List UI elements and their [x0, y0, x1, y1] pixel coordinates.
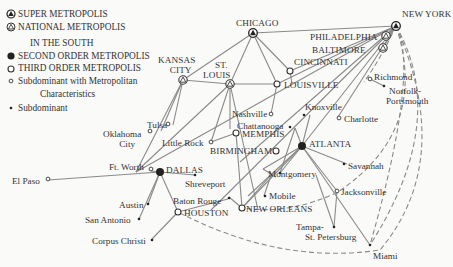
- label-houston: HOUSTON: [184, 208, 228, 218]
- node-austin[interactable]: [147, 203, 150, 206]
- legend-subdom-metro-1: Subdominant with Metropolitan: [18, 75, 137, 88]
- legend-heading: IN THE SOUTH: [4, 37, 150, 50]
- label-nashville: Nashville: [232, 109, 267, 119]
- node-corpus-christi[interactable]: [151, 239, 154, 242]
- label-savannah: Savannah: [348, 161, 384, 171]
- node-baton-rouge[interactable]: [228, 197, 231, 200]
- node-new-orleans[interactable]: [239, 205, 245, 211]
- label-little-rock: Little Rock: [162, 138, 204, 148]
- node-dallas[interactable]: [156, 168, 164, 176]
- legend-third: THIRD ORDER METROPOLIS: [18, 62, 141, 75]
- label-philadelphia: PHILADELPHIA: [310, 32, 378, 42]
- label-baton-rouge: Baton Rouge: [173, 196, 221, 206]
- label-jacksonville: Jacksonville: [341, 187, 386, 197]
- node-ft-worth[interactable]: [149, 167, 153, 171]
- legend-subdom-metro-2: Characteristics: [4, 88, 150, 101]
- node-new-york[interactable]: [392, 22, 401, 31]
- label-corpus-christi: Corpus Christi: [92, 236, 146, 246]
- legend-national: NATIONAL METROPOLIS: [18, 21, 125, 34]
- node-savannah[interactable]: [343, 163, 346, 166]
- node-cincinnati[interactable]: [287, 68, 293, 74]
- label-chicago: CHICAGO: [236, 18, 279, 28]
- node-richmond[interactable]: [368, 77, 372, 81]
- node-houston[interactable]: [175, 209, 181, 215]
- node-louisville[interactable]: [274, 81, 280, 87]
- label-birmingham: BIRMINGHAM: [210, 146, 272, 156]
- node-birmingham[interactable]: [273, 148, 279, 154]
- label-shreveport: Shreveport: [185, 179, 225, 189]
- node-knoxville[interactable]: [303, 114, 306, 117]
- label-ft-worth: Ft. Worth: [109, 162, 144, 172]
- label-norfolk: Norfolk-Portsmouth: [389, 86, 428, 106]
- third-order-icon: [4, 64, 18, 74]
- node-el-paso[interactable]: [46, 177, 50, 181]
- label-montgomery: Montgomery: [268, 169, 316, 179]
- node-baltimore[interactable]: [379, 44, 387, 52]
- second-order-icon: [4, 51, 18, 61]
- node-chattanooga[interactable]: [289, 126, 292, 129]
- legend-second: SECOND ORDER METROPOLIS: [18, 50, 150, 63]
- node-kansas-city[interactable]: [179, 76, 187, 84]
- subdominant-metro-icon: [4, 76, 18, 86]
- label-richmond: Richmond: [374, 72, 412, 82]
- label-atlanta: ATLANTA: [309, 139, 351, 149]
- label-el-paso: El Paso: [12, 176, 40, 186]
- node-norfolk[interactable]: [383, 85, 386, 88]
- node-atlanta[interactable]: [298, 142, 306, 150]
- label-austin: Austin: [119, 200, 144, 210]
- legend-super: SUPER METROPOLIS: [18, 8, 108, 21]
- node-little-rock[interactable]: [209, 140, 213, 144]
- legend-subdom: Subdominant: [18, 102, 68, 115]
- node-chicago[interactable]: [249, 29, 258, 38]
- node-miami[interactable]: [369, 244, 372, 247]
- node-philadelphia[interactable]: [382, 32, 390, 40]
- node-st-louis[interactable]: [226, 80, 234, 88]
- label-cincinnati: CINCINNATI: [294, 57, 348, 67]
- label-charlotte: Charlotte: [344, 114, 378, 124]
- label-new-york: NEW YORK: [402, 9, 452, 19]
- legend: SUPER METROPOLIS NATIONAL METROPOLIS IN …: [4, 8, 150, 115]
- label-knoxville: Knoxville: [305, 102, 342, 112]
- label-mobile: Mobile: [269, 191, 296, 201]
- label-oklahoma-city: OklahomaCity: [103, 129, 141, 149]
- label-louisville: LOUISVILLE: [284, 80, 339, 90]
- node-san-antonio[interactable]: [138, 218, 141, 221]
- node-jacksonville[interactable]: [335, 189, 339, 193]
- label-tulsa: Tulsa: [147, 120, 167, 130]
- label-st-louis: ST.LOUIS: [203, 60, 231, 80]
- label-new-orleans: NEW ORLEANS: [246, 204, 313, 214]
- label-san-antonio: San Antonio: [85, 215, 131, 225]
- label-dallas: DALLAS: [166, 165, 203, 175]
- node-nashville[interactable]: [269, 112, 273, 116]
- label-miami: Miami: [373, 251, 398, 261]
- subdominant-icon: [4, 103, 18, 113]
- national-metropolis-icon: [4, 22, 18, 32]
- label-tampa: Tampa-St. Petersburg: [296, 222, 356, 242]
- label-memphis: MEMPHIS: [242, 129, 285, 139]
- super-metropolis-icon: [4, 9, 18, 19]
- label-baltimore: BALTIMORE: [312, 45, 366, 55]
- label-kansas-city: KANSASCITY: [158, 55, 195, 75]
- node-charlotte[interactable]: [337, 116, 341, 120]
- node-mobile[interactable]: [264, 195, 267, 198]
